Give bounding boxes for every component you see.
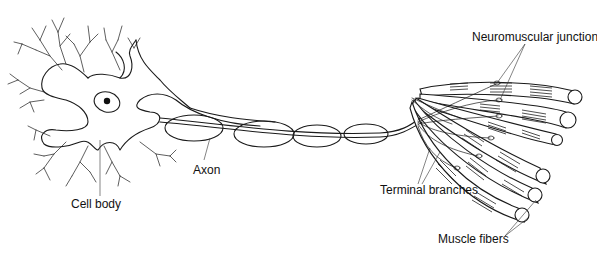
cell-body-label: Cell body xyxy=(71,197,121,211)
terminal-branches-label: Terminal branches xyxy=(380,183,478,197)
muscle-fibers xyxy=(410,82,582,222)
nucleus xyxy=(92,89,122,115)
dendrites xyxy=(8,18,176,186)
fiber-end xyxy=(528,188,542,202)
muscle-fibers-label: Muscle fibers xyxy=(438,232,509,246)
fiber-end xyxy=(568,90,582,104)
myelin-sheath xyxy=(165,115,388,147)
nucleolus xyxy=(104,98,110,104)
neuron-diagram: Cell body Axon Neuromuscular junction Te… xyxy=(0,0,597,254)
fiber-end xyxy=(536,169,550,183)
axon-leader xyxy=(204,138,210,160)
fiber-end xyxy=(515,208,529,222)
cell-body xyxy=(42,40,275,150)
neuromuscular-junction-label: Neuromuscular junction xyxy=(472,30,597,44)
fiber-end xyxy=(560,112,576,128)
axon-label: Axon xyxy=(193,163,220,177)
fiber-end xyxy=(552,135,563,146)
